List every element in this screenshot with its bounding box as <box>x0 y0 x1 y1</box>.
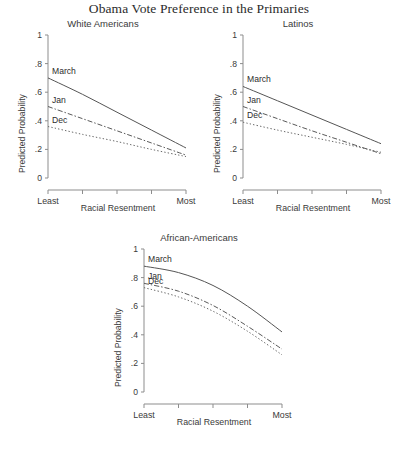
svg-text:.2: .2 <box>131 358 138 368</box>
panel-latinos: Latinos 0.2.4.6.81LeastMostMarchJanDec P… <box>203 18 393 218</box>
plot-area: 0.2.4.6.81LeastMostMarchJanDec <box>104 232 294 432</box>
y-axis-label: Predicted Probability <box>17 94 27 173</box>
svg-text:.2: .2 <box>35 144 42 154</box>
series-label-jan: Jan <box>52 95 66 105</box>
series-line-march <box>48 78 186 148</box>
svg-text:1: 1 <box>133 244 138 254</box>
series-label-dec: Dec <box>247 110 263 120</box>
figure-root: Obama Vote Preference in the Primaries W… <box>0 0 398 453</box>
series-label-march: March <box>52 66 76 76</box>
svg-text:.4: .4 <box>131 330 138 340</box>
x-axis-label: Racial Resentment <box>243 203 383 213</box>
series-label-jan: Jan <box>247 95 261 105</box>
svg-text:0: 0 <box>232 173 237 183</box>
series-label-march: March <box>247 74 271 84</box>
svg-text:.8: .8 <box>131 273 138 283</box>
series-label-dec: Dec <box>52 115 68 125</box>
series-line-dec <box>144 288 282 355</box>
svg-text:.6: .6 <box>131 301 138 311</box>
svg-text:1: 1 <box>37 30 42 40</box>
panel-white-americans: White Americans 0.2.4.6.81LeastMostMarch… <box>8 18 198 218</box>
svg-text:.4: .4 <box>35 116 42 126</box>
series-label-march: March <box>148 254 172 264</box>
x-axis-label: Racial Resentment <box>48 203 188 213</box>
x-axis-label: Racial Resentment <box>144 417 284 427</box>
svg-text:.8: .8 <box>35 59 42 69</box>
series-line-march <box>144 266 282 332</box>
svg-text:.2: .2 <box>230 144 237 154</box>
plot-area: 0.2.4.6.81LeastMostMarchJanDec <box>203 18 393 218</box>
series-line-march <box>243 86 381 143</box>
svg-text:.6: .6 <box>230 87 237 97</box>
svg-text:0: 0 <box>37 173 42 183</box>
plot-area: 0.2.4.6.81LeastMostMarchJanDec <box>8 18 198 218</box>
svg-text:1: 1 <box>232 30 237 40</box>
svg-text:0: 0 <box>133 387 138 397</box>
series-line-dec <box>48 127 186 157</box>
svg-text:.8: .8 <box>230 59 237 69</box>
svg-text:.6: .6 <box>35 87 42 97</box>
figure-title: Obama Vote Preference in the Primaries <box>0 1 398 17</box>
y-axis-label: Predicted Probability <box>212 94 222 173</box>
series-line-dec <box>243 122 381 152</box>
series-label-dec: Dec <box>148 276 164 286</box>
panel-african-americans: African-Americans 0.2.4.6.81LeastMostMar… <box>104 232 294 432</box>
y-axis-label: Predicted Probability <box>113 308 123 387</box>
svg-text:.4: .4 <box>230 116 237 126</box>
series-line-jan <box>243 107 381 154</box>
